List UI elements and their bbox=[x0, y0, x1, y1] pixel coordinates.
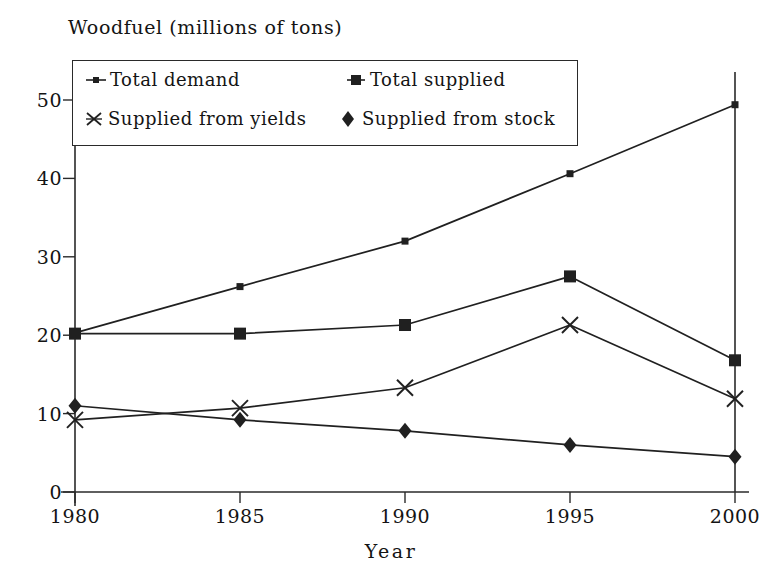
legend-label-supplied-from-stock: Supplied from stock bbox=[362, 108, 555, 129]
legend-entry-supplied-from-yields[interactable]: Supplied from yields bbox=[83, 108, 306, 129]
series-total-supplied bbox=[69, 270, 741, 366]
chart-container: Woodfuel (millions of tons) 50 40 30 20 … bbox=[0, 0, 782, 582]
legend-label-total-demand: Total demand bbox=[110, 69, 240, 90]
legend-label-supplied-from-yields: Supplied from yields bbox=[108, 108, 306, 129]
series-supplied-from-stock bbox=[69, 398, 742, 465]
square-line-icon bbox=[345, 71, 367, 89]
small-square-line-icon bbox=[85, 71, 107, 89]
legend-entry-total-demand[interactable]: Total demand bbox=[85, 69, 240, 90]
x-asterisk-icon bbox=[83, 110, 105, 128]
legend: Total demand Total supplied Supplied fro… bbox=[72, 60, 578, 146]
legend-entry-total-supplied[interactable]: Total supplied bbox=[345, 69, 505, 90]
data-series-layer bbox=[67, 101, 743, 465]
diamond-icon bbox=[337, 110, 359, 128]
legend-label-total-supplied: Total supplied bbox=[370, 69, 505, 90]
legend-entry-supplied-from-stock[interactable]: Supplied from stock bbox=[337, 108, 555, 129]
